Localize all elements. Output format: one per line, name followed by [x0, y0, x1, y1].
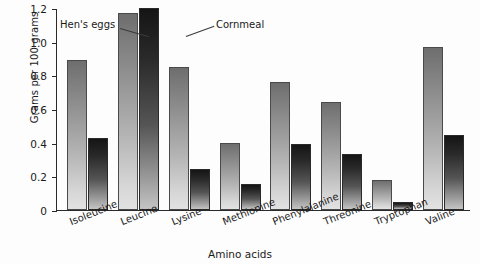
y-tick-label-0.6: 0.6: [30, 104, 47, 116]
bar: [220, 143, 240, 210]
bar-group: [270, 9, 311, 210]
y-tick-label-0.8: 0.8: [30, 70, 47, 82]
bar: [190, 169, 210, 210]
bar: [67, 60, 87, 210]
bar: [139, 8, 159, 210]
bar: [291, 144, 311, 210]
bar-group: [67, 9, 108, 210]
annotation-cornmeal: Cornmeal: [216, 19, 264, 30]
bar-chart-figure: Grams per 100 grams 1.2 1.0 0.8 0.6 0.4 …: [0, 0, 480, 264]
annotation-hens-eggs: Hen's eggs: [60, 19, 115, 30]
y-tick-label-1.0: 1.0: [30, 37, 47, 49]
bar-group: [220, 9, 261, 210]
bar-group-container: [57, 9, 470, 210]
bar-group: [169, 9, 210, 210]
y-tick-label-0: 0: [40, 205, 47, 217]
bar-group: [372, 9, 413, 210]
y-tick-label-1.2: 1.2: [30, 3, 47, 15]
bar-group: [118, 9, 159, 210]
bar-group: [321, 9, 362, 210]
y-tick-0: 0: [52, 211, 57, 212]
x-axis-title: Amino acids: [0, 248, 480, 260]
bar: [423, 47, 443, 210]
bar: [444, 135, 464, 210]
y-tick-label-0.2: 0.2: [30, 171, 47, 183]
bar-group: [423, 9, 464, 210]
bar: [88, 138, 108, 210]
y-tick-label-0.4: 0.4: [30, 138, 47, 150]
bar: [372, 180, 392, 210]
bar: [118, 13, 138, 210]
plot-area: 1.2 1.0 0.8 0.6 0.4 0.2 0: [56, 9, 470, 211]
bar: [169, 67, 189, 210]
bar: [270, 82, 290, 210]
